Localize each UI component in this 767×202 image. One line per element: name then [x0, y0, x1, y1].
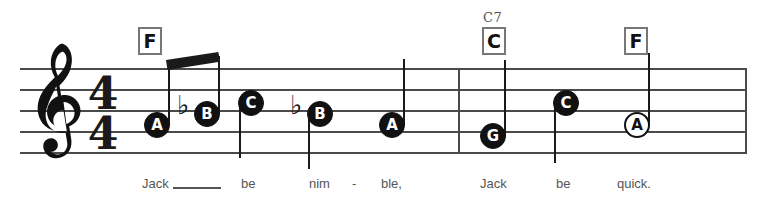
treble-clef-svg [32, 42, 88, 160]
lyric-be-2: be [556, 176, 570, 191]
time-signature-denominator: 4 [86, 114, 120, 154]
time-signature: 4 4 [86, 74, 120, 155]
note-b-2-letter: B [314, 105, 325, 123]
note-b-1-stem [218, 56, 220, 114]
lyric-ble: ble, [381, 176, 402, 191]
barline-1 [458, 68, 460, 152]
barline-end [745, 68, 747, 152]
note-c-2[interactable]: C [553, 90, 579, 116]
note-c-1[interactable]: C [238, 90, 264, 116]
note-b-2[interactable]: B [307, 101, 333, 127]
lyric-be-1: be [241, 176, 255, 191]
staff-line [20, 89, 747, 91]
note-b-1-flat-icon: ♭ [177, 92, 189, 118]
lyric-nim: nim [309, 176, 330, 191]
chord-f-1-label: F [144, 30, 157, 52]
chord-f-2-label: F [630, 30, 643, 52]
note-g-1[interactable]: G [480, 123, 506, 149]
note-a-3[interactable]: A [624, 112, 650, 138]
chord-f-2[interactable]: F [624, 27, 648, 55]
chord-f-1[interactable]: F [138, 27, 162, 55]
note-a-3-stem [648, 53, 650, 125]
note-a-2[interactable]: A [379, 112, 405, 138]
music-score-sheet: 4 4 A♭BC♭BAGCA FC7CF Jackbenim-ble,Jackb… [0, 0, 767, 202]
note-a-2-stem [403, 59, 405, 125]
treble-clef-icon [32, 42, 88, 178]
note-c-1-letter: C [245, 94, 256, 112]
lyric-quick: quick. [617, 176, 651, 191]
note-b-2-flat-icon: ♭ [290, 92, 302, 118]
staff-line [20, 68, 747, 70]
lyric-hyphen: - [352, 176, 356, 191]
lyric-jack-1: Jack [142, 176, 169, 191]
staff-line [20, 152, 747, 154]
lyric-jack-2: Jack [480, 176, 507, 191]
note-a-2-letter: A [386, 116, 398, 134]
note-a-3-letter: A [631, 116, 643, 134]
chord-c7-label: C [487, 30, 501, 52]
note-g-1-letter: G [487, 127, 499, 145]
note-b-1[interactable]: B [194, 101, 220, 127]
note-g-1-stem [504, 60, 506, 136]
note-a-1[interactable]: A [144, 112, 170, 138]
chord-c7[interactable]: C [482, 27, 506, 55]
lyric-extender [173, 187, 221, 189]
note-c-2-letter: C [560, 94, 571, 112]
note-a-1-letter: A [151, 116, 163, 134]
chord-c7-superscript: C7 [483, 10, 502, 25]
note-b-1-letter: B [201, 105, 212, 123]
note-a-1-stem [168, 67, 170, 125]
